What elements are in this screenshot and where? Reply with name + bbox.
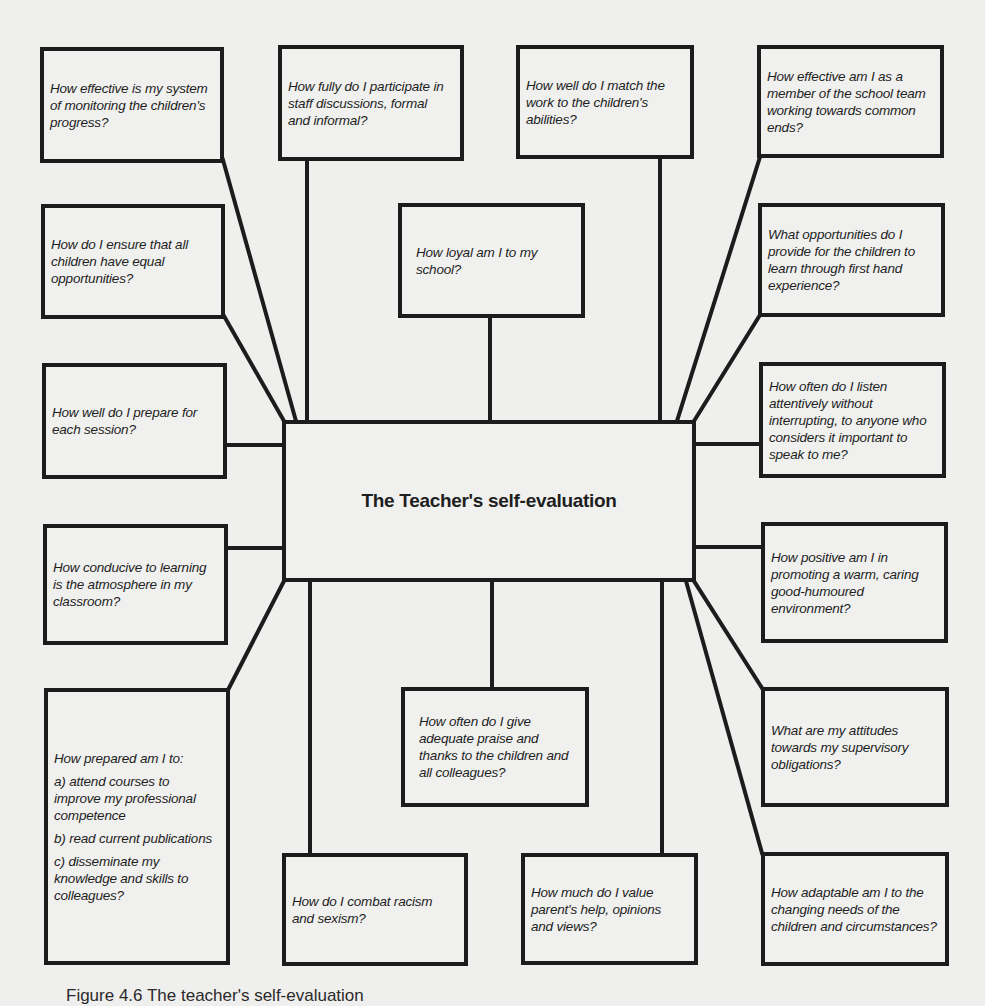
box-racism: How do I combat racism and sexism? <box>282 853 468 966</box>
box-text: How do I combat racism and sexism? <box>292 893 456 927</box>
box-text: How well do I match the work to the chil… <box>526 77 682 128</box>
box-text: How positive am I in promoting a warm, c… <box>771 549 936 617</box>
box-participate: How fully do I participate in staff disc… <box>278 45 464 161</box>
box-text: How effective am I as a member of the sc… <box>767 68 932 136</box>
diagram-title: The Teacher's self-evaluation <box>361 490 616 512</box>
box-text-a: a) attend courses to improve my professi… <box>54 773 218 824</box>
figure-caption: Figure 4.6 The teacher's self-evaluation <box>66 986 364 1006</box>
box-parents: How much do I value parent's help, opini… <box>521 853 698 965</box>
box-match-work: How well do I match the work to the chil… <box>516 45 694 159</box>
box-listen: How often do I listen attentively withou… <box>759 362 946 478</box>
box-prepare: How well do I prepare for each session? <box>42 363 227 479</box>
box-supervisory: What are my attitudes towards my supervi… <box>761 687 949 807</box>
box-praise: How often do I give adequate praise and … <box>401 687 589 807</box>
box-loyal: How loyal am I to my school? <box>398 203 585 318</box>
box-text: What are my attitudes towards my supervi… <box>771 722 937 773</box>
box-professional-development: How prepared am I to: a) attend courses … <box>44 688 230 965</box>
box-text-c: c) disseminate my knowledge and skills t… <box>54 853 218 904</box>
box-text-b: b) read current publications <box>54 830 218 847</box>
box-team-member: How effective am I as a member of the sc… <box>757 45 944 158</box>
box-text-intro: How prepared am I to: <box>54 750 218 767</box>
box-equal-opportunities: How do I ensure that all children have e… <box>41 204 225 319</box>
box-text: How effective is my system of monitoring… <box>50 80 212 131</box>
box-adaptable: How adaptable am I to the changing needs… <box>761 852 949 966</box>
box-text: How conducive to learning is the atmosph… <box>53 559 216 610</box>
box-text: How adaptable am I to the changing needs… <box>771 884 937 935</box>
box-text: What opportunities do I provide for the … <box>768 226 933 294</box>
box-text: How well do I prepare for each session? <box>52 404 215 438</box>
center-title-box: The Teacher's self-evaluation <box>282 420 696 582</box>
box-text: How fully do I participate in staff disc… <box>288 78 452 129</box>
box-first-hand: What opportunities do I provide for the … <box>758 203 945 317</box>
box-text: How loyal am I to my school? <box>416 244 573 278</box>
box-text: How often do I give adequate praise and … <box>419 713 577 781</box>
box-text: How do I ensure that all children have e… <box>51 236 213 287</box>
box-atmosphere: How conducive to learning is the atmosph… <box>43 524 228 645</box>
box-text: How much do I value parent's help, opini… <box>531 884 686 935</box>
box-monitoring: How effective is my system of monitoring… <box>40 47 224 163</box>
box-positive: How positive am I in promoting a warm, c… <box>761 522 948 643</box>
box-text: How often do I listen attentively withou… <box>769 378 934 463</box>
